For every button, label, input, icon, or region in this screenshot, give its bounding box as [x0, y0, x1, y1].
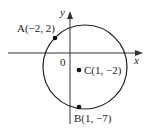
- point-b: [77, 105, 82, 110]
- point-b-label: B(1, −7): [74, 112, 112, 125]
- origin-label: 0: [60, 56, 66, 68]
- y-axis-label: y: [59, 6, 65, 18]
- point-a: [53, 36, 58, 41]
- point-c-label: C(1, −2): [84, 64, 122, 77]
- x-axis-label: x: [133, 54, 139, 66]
- point-c: [77, 68, 82, 73]
- point-a-label: A(−2, 2): [17, 22, 55, 35]
- y-axis-arrow: [67, 11, 73, 19]
- coordinate-diagram: x y 0 A(−2, 2) C(1, −2) B(1, −7): [0, 0, 148, 132]
